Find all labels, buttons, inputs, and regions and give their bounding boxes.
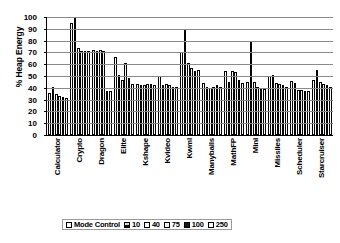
bar bbox=[228, 82, 231, 135]
gridline bbox=[47, 76, 333, 77]
bar bbox=[253, 82, 256, 135]
gridline bbox=[47, 29, 333, 30]
chart-legend: Mode Control104075100250 bbox=[62, 219, 232, 230]
bar bbox=[231, 71, 234, 135]
bar bbox=[184, 29, 187, 135]
x-axis-label: Starcruiser bbox=[317, 138, 326, 178]
bar bbox=[150, 84, 153, 135]
bar bbox=[275, 83, 278, 135]
legend-label: 75 bbox=[172, 220, 180, 229]
bar bbox=[316, 70, 319, 135]
bar bbox=[62, 97, 65, 135]
x-axis-label: Manyballs bbox=[207, 138, 216, 175]
x-axis-label: Missiles bbox=[273, 138, 282, 168]
legend-label: 10 bbox=[132, 220, 140, 229]
bar bbox=[297, 90, 300, 135]
y-tick-mark bbox=[44, 29, 47, 30]
bar-chart: % Heap Energy 0102030405060708090100 Cal… bbox=[0, 0, 340, 243]
gridline bbox=[47, 52, 333, 53]
x-axis-label: MathFP bbox=[229, 138, 238, 166]
x-axis-label-cell: Mini bbox=[244, 136, 266, 210]
bar bbox=[241, 83, 244, 135]
bar bbox=[307, 91, 310, 135]
x-axis-label-cell: Dragon bbox=[90, 136, 112, 210]
legend-label: 250 bbox=[216, 220, 228, 229]
x-axis-label: Dragon bbox=[97, 138, 106, 165]
bar bbox=[136, 84, 139, 135]
legend-label: 100 bbox=[192, 220, 204, 229]
gridline bbox=[47, 88, 333, 89]
y-tick-label: 30 bbox=[0, 95, 37, 104]
y-tick-label: 100 bbox=[0, 13, 37, 22]
bar bbox=[58, 96, 61, 135]
y-tick-label: 10 bbox=[0, 119, 37, 128]
x-axis-label-cell: Elite bbox=[112, 136, 134, 210]
x-axis-label: Calculator bbox=[53, 138, 62, 175]
bar bbox=[282, 85, 285, 135]
x-axis-label-cell: Crypto bbox=[68, 136, 90, 210]
x-axis-label: Mini bbox=[251, 138, 260, 153]
legend-item: 10 bbox=[124, 220, 140, 229]
y-tick-label: 90 bbox=[0, 24, 37, 33]
y-tick-mark bbox=[44, 52, 47, 53]
bar bbox=[246, 82, 249, 135]
y-tick-label: 20 bbox=[0, 107, 37, 116]
y-tick-label: 60 bbox=[0, 60, 37, 69]
x-axis-label-cell: MathFP bbox=[222, 136, 244, 210]
legend-swatch bbox=[208, 222, 214, 228]
bar bbox=[143, 85, 146, 135]
y-tick-mark bbox=[44, 88, 47, 89]
x-axis-label: Kwml bbox=[185, 138, 194, 159]
bar bbox=[118, 75, 121, 135]
bar bbox=[140, 85, 143, 135]
bar bbox=[202, 83, 205, 135]
bar bbox=[168, 85, 171, 135]
legend-swatch bbox=[184, 222, 190, 228]
legend-label: 40 bbox=[152, 220, 160, 229]
y-tick-label: 80 bbox=[0, 36, 37, 45]
bar bbox=[162, 85, 165, 135]
bar bbox=[278, 84, 281, 135]
bar bbox=[194, 71, 197, 135]
y-tick-mark bbox=[44, 17, 47, 18]
bar bbox=[322, 84, 325, 135]
legend-item: 40 bbox=[144, 220, 160, 229]
x-axis-label-cell: Missiles bbox=[266, 136, 288, 210]
bar bbox=[77, 48, 80, 135]
bar bbox=[224, 71, 227, 135]
y-tick-label: 40 bbox=[0, 83, 37, 92]
bar bbox=[197, 70, 200, 135]
x-axis-label-cell: Kshape bbox=[134, 136, 156, 210]
gridline bbox=[47, 17, 333, 18]
x-axis-label-cell: Kwml bbox=[178, 136, 200, 210]
x-axis-label: Kvideo bbox=[163, 138, 172, 163]
x-axis-label-cell: Kvideo bbox=[156, 136, 178, 210]
bar bbox=[165, 84, 168, 135]
bar bbox=[106, 91, 109, 135]
bar bbox=[326, 85, 329, 135]
bar bbox=[158, 76, 161, 135]
gridline bbox=[47, 41, 333, 42]
legend-item: 100 bbox=[184, 220, 204, 229]
legend-item: 75 bbox=[164, 220, 180, 229]
legend-swatch bbox=[66, 222, 72, 228]
bar bbox=[290, 81, 293, 135]
legend-label: Mode Control bbox=[74, 220, 120, 229]
legend-swatch bbox=[144, 222, 150, 228]
legend-item: 250 bbox=[208, 220, 228, 229]
gridline bbox=[47, 64, 333, 65]
bar bbox=[131, 84, 134, 135]
x-axis-label-cell: Manyballs bbox=[200, 136, 222, 210]
bar bbox=[272, 75, 275, 135]
bar bbox=[153, 85, 156, 135]
y-tick-mark bbox=[44, 64, 47, 65]
bar bbox=[268, 76, 271, 135]
y-tick-label: 0 bbox=[0, 131, 37, 140]
legend-item: Mode Control bbox=[66, 220, 120, 229]
x-axis-label-cell: Scheduler bbox=[288, 136, 310, 210]
x-axis-label: Elite bbox=[119, 138, 128, 154]
x-axis-label-cell: Starcruiser bbox=[310, 136, 332, 210]
bar bbox=[109, 91, 112, 135]
bar bbox=[146, 84, 149, 135]
bar bbox=[234, 72, 237, 135]
